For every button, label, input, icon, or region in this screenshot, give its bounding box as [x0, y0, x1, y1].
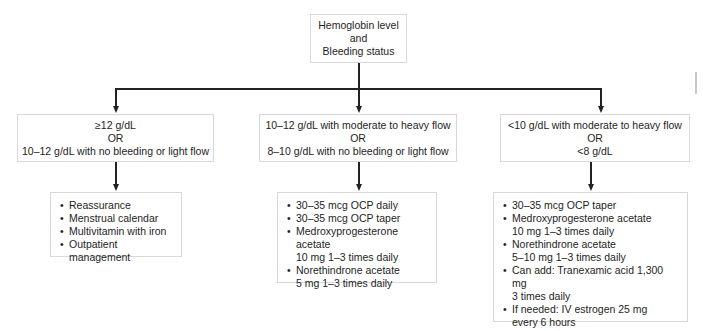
treatment-item-text: Medroxyprogesterone acetate — [296, 225, 398, 250]
connector-right-treatment — [590, 162, 592, 186]
treatment-item-text: 30–35 mcg OCP daily — [296, 199, 398, 211]
root-line-3: Bleeding status — [323, 45, 395, 58]
edge-mark — [695, 72, 697, 94]
criteria-or: OR — [108, 132, 124, 145]
treatment-item-text: Medroxyprogesterone acetate — [512, 212, 652, 224]
treatment-item-text: 30–35 mcg OCP taper — [512, 199, 616, 211]
treatment-item-dose: 10 mg 1–3 times daily — [296, 251, 428, 264]
root-node-hemoglobin-bleeding: Hemoglobin level and Bleeding status — [310, 14, 407, 63]
treatment-item-dose: 3 times daily — [512, 290, 679, 303]
treatment-item: Reassurance — [60, 199, 173, 212]
treatment-item-text: Can add: Tranexamic acid 1,300 mg — [512, 264, 663, 289]
treatment-item-text: Reassurance — [69, 199, 131, 211]
arrow-down-icon — [598, 106, 604, 113]
criteria-box-hb-10-12-moderate: 10–12 g/dL with moderate to heavy flow O… — [259, 114, 457, 162]
treatment-item-text: Menstrual calendar — [69, 212, 158, 224]
treatment-item-text: Norethindrone acetate — [296, 264, 400, 276]
treatment-item-text: Multivitamin with iron — [69, 225, 166, 237]
treatment-box-mild: Reassurance Menstrual calendar Multivita… — [50, 192, 182, 257]
treatment-box-severe: 30–35 mcg OCP taper Medroxyprogesterone … — [493, 192, 688, 322]
criteria-line: 10–12 g/dL with moderate to heavy flow — [265, 119, 450, 132]
arrow-down-icon — [588, 184, 594, 191]
criteria-or: OR — [587, 132, 603, 145]
treatment-item: Medroxyprogesterone acetate10 mg 1–3 tim… — [287, 225, 428, 264]
criteria-or: OR — [350, 132, 366, 145]
criteria-line: ≥12 g/dL — [95, 119, 136, 132]
treatment-list: Reassurance Menstrual calendar Multivita… — [60, 199, 173, 264]
arrow-down-icon — [113, 184, 119, 191]
criteria-line: <8 g/dL — [577, 145, 612, 158]
treatment-item-text: If needed: IV estrogen 25 mg — [512, 303, 647, 315]
treatment-item: Menstrual calendar — [60, 212, 173, 225]
treatment-list: 30–35 mcg OCP taper Medroxyprogesterone … — [503, 199, 679, 329]
criteria-line: <10 g/dL with moderate to heavy flow — [508, 119, 682, 132]
treatment-item-text: Norethindrone acetate — [512, 238, 616, 250]
treatment-item: 30–35 mcg OCP taper — [503, 199, 679, 212]
treatment-item: If needed: IV estrogen 25 mgevery 6 hour… — [503, 303, 679, 329]
connector-right-down — [600, 88, 602, 108]
root-line-1: Hemoglobin level — [318, 19, 399, 32]
connector-left-treatment — [115, 162, 117, 186]
criteria-box-hb-under-10-severe: <10 g/dL with moderate to heavy flow OR … — [500, 114, 690, 162]
treatment-item: 30–35 mcg OCP taper — [287, 212, 428, 225]
treatment-item-dose: 10 mg 1–3 times daily — [512, 225, 679, 238]
arrow-down-icon — [113, 106, 119, 113]
treatment-item-dose: every 6 hours — [512, 316, 679, 329]
treatment-item: 30–35 mcg OCP daily — [287, 199, 428, 212]
arrow-down-icon — [356, 184, 362, 191]
criteria-box-hb-12-or-more: ≥12 g/dL OR 10–12 g/dL with no bleeding … — [17, 114, 214, 162]
treatment-item: Norethindrone acetate5–10 mg 1–3 times d… — [503, 238, 679, 264]
arrow-down-icon — [356, 106, 362, 113]
treatment-item: Multivitamin with iron — [60, 225, 173, 238]
treatment-item: Outpatient management — [60, 238, 173, 264]
treatment-item: Medroxyprogesterone acetate10 mg 1–3 tim… — [503, 212, 679, 238]
treatment-item: Norethindrone acetate5 mg 1–3 times dail… — [287, 264, 428, 290]
treatment-item: Can add: Tranexamic acid 1,300 mg3 times… — [503, 264, 679, 303]
connector-left-down — [115, 88, 117, 108]
connector-mid-down — [358, 88, 360, 108]
treatment-item-dose: 5 mg 1–3 times daily — [296, 277, 428, 290]
treatment-box-moderate: 30–35 mcg OCP daily 30–35 mcg OCP taper … — [277, 192, 437, 283]
root-line-2: and — [350, 32, 368, 45]
treatment-item-text: Outpatient management — [69, 238, 130, 263]
connector-mid-treatment — [358, 162, 360, 186]
treatment-list: 30–35 mcg OCP daily 30–35 mcg OCP taper … — [287, 199, 428, 290]
criteria-line: 10–12 g/dL with no bleeding or light flo… — [22, 145, 209, 158]
treatment-item-text: 30–35 mcg OCP taper — [296, 212, 400, 224]
criteria-line: 8–10 g/dL with no bleeding or light flow — [267, 145, 448, 158]
treatment-item-dose: 5–10 mg 1–3 times daily — [512, 251, 679, 264]
